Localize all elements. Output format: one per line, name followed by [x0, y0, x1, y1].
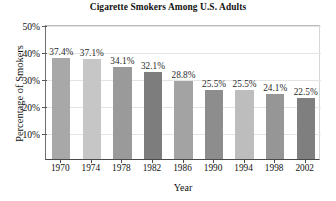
y-tick-mark: [42, 134, 47, 135]
x-tick-label: 1986: [173, 163, 192, 173]
x-tick-label: 1982: [143, 163, 162, 173]
bar: [266, 94, 284, 159]
x-axis-title: Year: [44, 182, 322, 193]
y-axis-title: Percentage of Smokers: [14, 19, 25, 169]
bar-value-label: 25.5%: [233, 79, 257, 89]
y-tick-label: 20%: [22, 102, 40, 113]
bar-value-label: 25.5%: [202, 79, 226, 89]
x-tick-label: 1994: [234, 163, 253, 173]
gridline: [46, 26, 321, 27]
y-tick-mark: [42, 80, 47, 81]
x-tick-label: 1990: [204, 163, 223, 173]
x-tick-label: 1998: [265, 163, 284, 173]
x-tick-label: 2002: [295, 163, 314, 173]
x-tick-label: 1970: [51, 163, 70, 173]
y-tick-mark: [42, 53, 47, 54]
y-tick-label: 50%: [22, 21, 40, 32]
bar: [205, 90, 223, 159]
y-tick-mark: [42, 26, 47, 27]
bar: [83, 59, 101, 159]
bar-value-label: 22.5%: [294, 87, 318, 97]
bar: [235, 90, 253, 159]
chart-title: Cigarette Smokers Among U.S. Adults: [0, 2, 336, 12]
y-tick-label: 10%: [22, 129, 40, 140]
bar: [174, 81, 192, 159]
bar: [113, 67, 131, 159]
bar: [52, 58, 70, 159]
x-tick-label: 1974: [82, 163, 101, 173]
y-tick-label: 40%: [22, 48, 40, 59]
bar-value-label: 34.1%: [110, 56, 134, 66]
bar-chart: Cigarette Smokers Among U.S. Adults Perc…: [0, 0, 336, 201]
bar-value-label: 37.4%: [49, 47, 73, 57]
bar-value-label: 37.1%: [80, 48, 104, 58]
bar: [144, 72, 162, 159]
y-tick-mark: [42, 107, 47, 108]
plot-area: 10%20%30%40%50% 37.4%37.1%34.1%32.1%28.8…: [45, 25, 320, 160]
bar: [297, 98, 315, 159]
y-tick-label: 30%: [22, 75, 40, 86]
bar-value-label: 24.1%: [263, 83, 287, 93]
x-tick-label: 1978: [112, 163, 131, 173]
bar-value-label: 28.8%: [171, 70, 195, 80]
bar-value-label: 32.1%: [141, 61, 165, 71]
